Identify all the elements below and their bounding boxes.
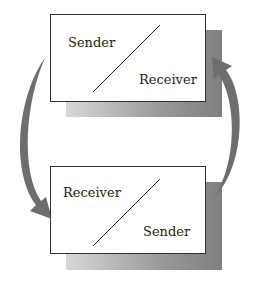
right-arrow-icon — [212, 57, 240, 198]
bottom-box-divider-line — [51, 167, 207, 255]
top-box-divider-line — [51, 15, 207, 103]
top-box-receiver-label: Receiver — [139, 72, 197, 87]
left-arrow-icon — [20, 58, 52, 219]
bottom-box: Receiver Sender — [50, 166, 206, 254]
communication-cycle-diagram: Sender Receiver Receiver Sender — [0, 0, 256, 285]
top-box: Sender Receiver — [50, 14, 206, 102]
bottom-box-sender-label: Sender — [143, 224, 190, 239]
